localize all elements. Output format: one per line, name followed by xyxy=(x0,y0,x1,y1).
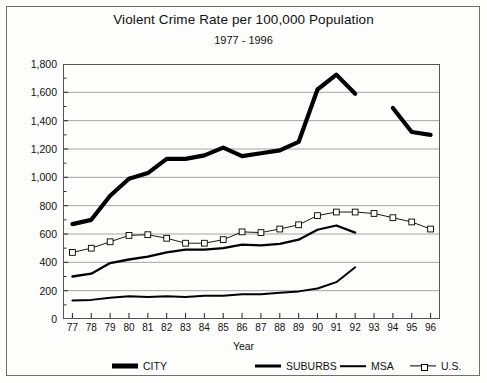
legend-item-city[interactable]: CITY xyxy=(112,357,167,375)
y-axis-tick-label: 1,200 xyxy=(13,143,57,155)
plot-area xyxy=(63,64,440,319)
chart-subtitle: 1977 - 1996 xyxy=(0,34,487,46)
y-axis-tick-label: 200 xyxy=(13,285,57,297)
y-axis-tick-label: 800 xyxy=(13,200,57,212)
legend-swatch-icon xyxy=(340,361,366,371)
y-axis-ticks xyxy=(63,64,68,319)
legend-label: U.S. xyxy=(441,360,461,372)
y-axis-tick-label: 0 xyxy=(13,313,57,325)
legend-swatch-icon xyxy=(410,361,436,371)
x-axis-title: Year xyxy=(0,340,487,352)
x-axis-tick-label: 96 xyxy=(420,322,442,333)
chart-legend: CITYSUBURBSMSAU.S. xyxy=(0,357,487,375)
y-axis-tick-label: 1,000 xyxy=(13,171,57,183)
x-axis-ticks xyxy=(72,313,430,319)
y-axis-tick-label: 1,400 xyxy=(13,115,57,127)
y-axis-tick-label: 1,800 xyxy=(13,58,57,70)
legend-label: MSA xyxy=(371,360,394,372)
y-axis-tick-label: 600 xyxy=(13,228,57,240)
y-axis-tick-label: 1,600 xyxy=(13,86,57,98)
legend-item-msa[interactable]: MSA xyxy=(340,357,394,375)
data-series-group xyxy=(70,75,434,301)
legend-label: SUBURBS xyxy=(286,360,337,372)
legend-item-suburbs[interactable]: SUBURBS xyxy=(255,357,337,375)
legend-item-us[interactable]: U.S. xyxy=(410,357,461,375)
legend-swatch-icon xyxy=(255,361,281,371)
y-axis-tick-label: 400 xyxy=(13,256,57,268)
legend-label: CITY xyxy=(143,360,167,372)
chart-page: Violent Crime Rate per 100,000 Populatio… xyxy=(0,0,487,383)
chart-title: Violent Crime Rate per 100,000 Populatio… xyxy=(0,12,487,27)
legend-marker-square-icon xyxy=(421,364,428,371)
legend-swatch-icon xyxy=(112,361,138,371)
